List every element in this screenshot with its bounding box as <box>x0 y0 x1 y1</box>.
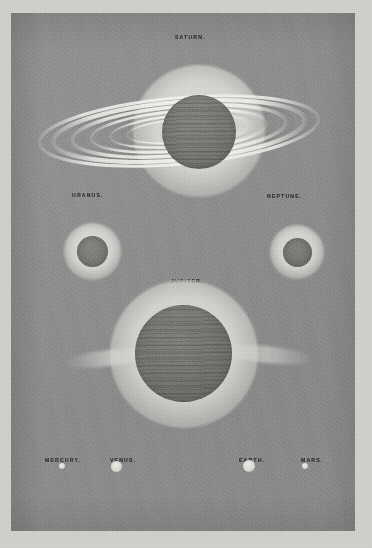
label-uranus: URANUS. <box>72 192 104 198</box>
label-mercury: MERCURY. <box>45 457 81 463</box>
saturn-bands <box>162 95 236 169</box>
jupiter-bands <box>135 305 232 402</box>
label-saturn: SATURN. <box>175 34 206 40</box>
venus-disc <box>111 461 122 472</box>
mars-disc <box>302 463 308 469</box>
mercury-disc <box>59 463 65 469</box>
uranus-disc <box>77 236 108 267</box>
earth-disc <box>243 460 255 472</box>
jupiter-disc <box>135 305 232 402</box>
saturn-disc <box>162 95 236 169</box>
neptune-disc <box>283 238 312 267</box>
paper-sheet: SATURN. <box>0 0 372 548</box>
label-neptune: NEPTUNE. <box>267 193 302 199</box>
engraved-plate: SATURN. <box>11 13 355 531</box>
